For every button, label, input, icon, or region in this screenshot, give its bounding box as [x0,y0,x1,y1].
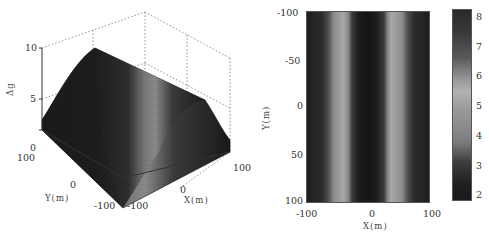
hm-x-tick-neg100: -100 [296,209,317,219]
surface-plot-graphic [0,0,250,236]
x-tick-0: 0 [180,185,186,195]
hm-y-tick-neg50: -50 [285,56,300,66]
x-tick-neg100: -100 [127,201,148,211]
x-axis-label: X(m) [184,196,209,205]
hm-y-axis-label: Y(m) [262,106,271,130]
hm-y-tick-50: 50 [291,150,303,160]
z-axis-label: Δg [6,82,15,96]
cbar-tick-8: 8 [476,12,482,22]
cbar-tick-2: 2 [476,190,482,200]
z-tick-10: 10 [25,43,37,53]
surface-plot: 10 5 0 Δg 100 0 -100 Y(m) -100 0 100 X(m… [0,0,250,236]
hm-y-tick-0: 0 [297,101,303,111]
cbar-tick-3: 3 [476,161,482,171]
hm-x-tick-0: 0 [369,209,375,219]
cbar-tick-4: 4 [476,131,482,141]
hm-x-axis-label: X(m) [363,222,388,231]
z-tick-5: 5 [30,94,36,104]
y-tick-neg100: -100 [94,201,115,211]
hm-y-tick-100: 100 [285,196,303,206]
y-tick-0: 0 [70,180,76,190]
cbar-tick-7: 7 [476,42,482,52]
cbar-tick-6: 6 [476,71,482,81]
x-tick-100: 100 [233,163,251,173]
y-tick-100: 100 [17,153,35,163]
heatmap-image [306,11,430,203]
colorbar [452,9,472,201]
hm-x-tick-100: 100 [423,209,441,219]
y-axis-label: Y(m) [45,194,69,203]
hm-y-tick-neg100: -100 [277,8,298,18]
cbar-tick-5: 5 [476,101,482,111]
